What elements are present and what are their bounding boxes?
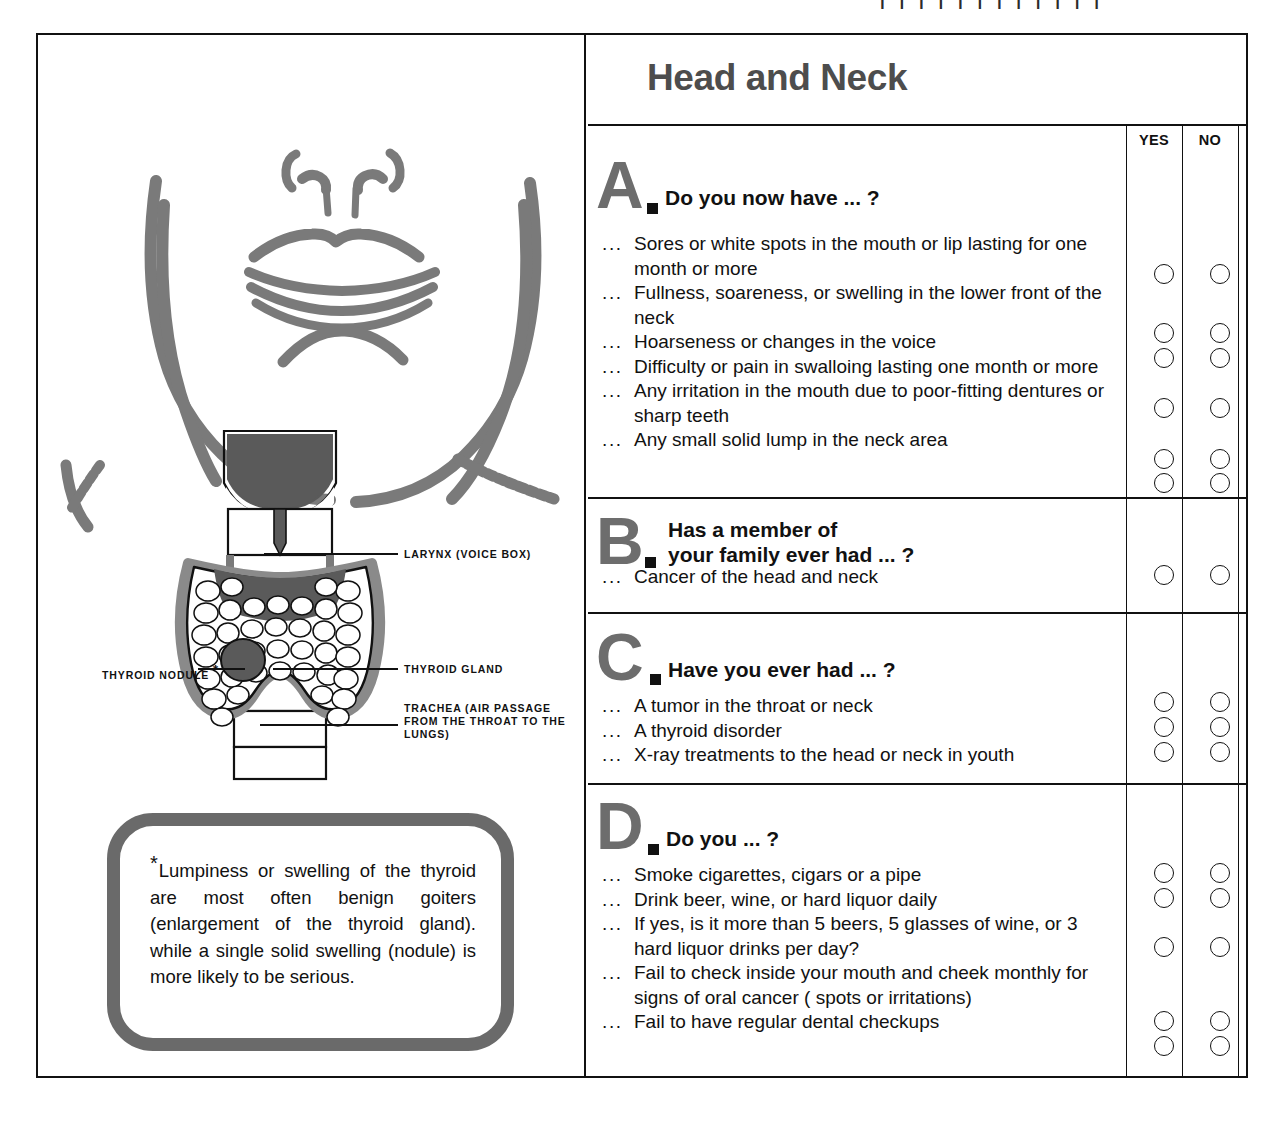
question-text: Smoke cigarettes, cigars or a pipe (634, 864, 921, 885)
footnote-body: Lumpiness or swelling of the thyroid are… (150, 860, 476, 987)
answer-bubble-yes[interactable] (1154, 398, 1174, 418)
label-thyroid-nodule-text: THYROID NODULE (102, 669, 209, 681)
section-b-prompt: Has a member ofyour family ever had ... … (668, 517, 914, 567)
answer-bubble-no[interactable] (1210, 264, 1230, 284)
answer-bubble-yes[interactable] (1154, 264, 1174, 284)
question-lead: ... (602, 355, 623, 380)
section-b-question-list: ...Cancer of the head and neck (602, 565, 1118, 590)
question-lead: ... (602, 719, 623, 744)
section-d: D Do you ... ? ...Smoke cigarettes, ciga… (588, 785, 1246, 1076)
answer-bubble-no[interactable] (1210, 692, 1230, 712)
answer-bubble-yes[interactable] (1154, 565, 1174, 585)
section-c-letter-dot (650, 674, 661, 685)
footnote-asterisk: * (150, 852, 158, 874)
question-item: ...Any irritation in the mouth due to po… (602, 379, 1118, 428)
answer-bubble-no[interactable] (1210, 717, 1230, 737)
question-lead: ... (602, 379, 623, 404)
question-lead: ... (602, 330, 623, 355)
question-lead: ... (602, 281, 623, 306)
question-text: X-ray treatments to the head or neck in … (634, 744, 1014, 765)
question-lead: ... (602, 694, 623, 719)
answer-bubble-yes[interactable] (1154, 348, 1174, 368)
answer-bubble-no[interactable] (1210, 348, 1230, 368)
question-lead: ... (602, 232, 623, 257)
answer-bubble-no[interactable] (1210, 742, 1230, 762)
question-lead: ... (602, 863, 623, 888)
answer-bubble-no[interactable] (1210, 1036, 1230, 1056)
section-d-prompt: Do you ... ? (666, 826, 779, 851)
answer-bubble-no[interactable] (1210, 888, 1230, 908)
thyroid-nodule-marker (221, 639, 265, 681)
question-item: ...Cancer of the head and neck (602, 565, 1118, 590)
larynx-structure (224, 431, 336, 555)
question-text: A tumor in the throat or neck (634, 695, 873, 716)
question-lead: ... (602, 743, 623, 768)
section-d-question-list: ...Smoke cigarettes, cigars or a pipe ..… (602, 863, 1118, 1035)
scan-artifact-fragment: | | | | | | | | | | | | (880, 0, 1104, 11)
answer-bubble-no[interactable] (1210, 473, 1230, 493)
question-item: ...Smoke cigarettes, cigars or a pipe (602, 863, 1118, 888)
answer-bubble-yes[interactable] (1154, 692, 1174, 712)
question-text: Fail to check inside your mouth and chee… (634, 962, 1088, 1008)
section-a-question-list: ...Sores or white spots in the mouth or … (602, 232, 1118, 453)
label-thyroid-nodule: THYROID NODULE* (102, 663, 219, 682)
question-text: Fullness, soareness, or swelling in the … (634, 282, 1102, 328)
question-text: Any irritation in the mouth due to poor-… (634, 380, 1104, 426)
answer-bubble-no[interactable] (1210, 449, 1230, 469)
answer-bubble-yes[interactable] (1154, 717, 1174, 737)
answer-bubble-yes[interactable] (1154, 1036, 1174, 1056)
question-text: Sores or white spots in the mouth or lip… (634, 233, 1087, 279)
answer-bubble-yes[interactable] (1154, 323, 1174, 343)
questionnaire-panel: Head and Neck YES NO A Do you now have .… (588, 35, 1246, 1076)
section-d-letter: D (596, 797, 644, 855)
answer-bubble-yes[interactable] (1154, 1011, 1174, 1031)
question-text: If yes, is it more than 5 beers, 5 glass… (634, 913, 1078, 959)
question-lead: ... (602, 1010, 623, 1035)
nose-icon (286, 153, 400, 215)
section-a-prompt: Do you now have ... ? (665, 185, 880, 210)
section-c-prompt: Have you ever had ... ? (668, 657, 896, 682)
answer-bubble-no[interactable] (1210, 565, 1230, 585)
answer-bubble-no[interactable] (1210, 863, 1230, 883)
question-item: ...Fail to check inside your mouth and c… (602, 961, 1118, 1010)
question-text: Cancer of the head and neck (634, 566, 878, 587)
answer-bubble-yes[interactable] (1154, 473, 1174, 493)
anatomy-illustration-panel: LARYNX (VOICE BOX) THYROID GLAND TRACHEA… (38, 35, 586, 1076)
question-item: ...Fullness, soareness, or swelling in t… (602, 281, 1118, 330)
label-trachea: TRACHEA (AIR PASSAGE FROM THE THROAT TO … (404, 702, 586, 741)
question-item: ...A thyroid disorder (602, 719, 1118, 744)
question-item: ...Difficulty or pain in swalloing lasti… (602, 355, 1118, 380)
neck-outline (151, 181, 536, 502)
answer-bubble-no[interactable] (1210, 937, 1230, 957)
question-text: Fail to have regular dental checkups (634, 1011, 939, 1032)
question-item: ...X-ray treatments to the head or neck … (602, 743, 1118, 768)
question-text: Any small solid lump in the neck area (634, 429, 948, 450)
answer-bubble-no[interactable] (1210, 398, 1230, 418)
thyroid-footnote-text: *Lumpiness or swelling of the thyroid ar… (150, 858, 476, 991)
answer-bubble-yes[interactable] (1154, 888, 1174, 908)
question-item: ...Fail to have regular dental checkups (602, 1010, 1118, 1035)
answer-bubble-yes[interactable] (1154, 742, 1174, 762)
question-item: ...Any small solid lump in the neck area (602, 428, 1118, 453)
question-text: Difficulty or pain in swalloing lasting … (634, 356, 1098, 377)
answer-bubble-yes[interactable] (1154, 449, 1174, 469)
section-a-letter-dot (647, 203, 658, 214)
answer-bubble-yes[interactable] (1154, 937, 1174, 957)
answer-bubble-yes[interactable] (1154, 863, 1174, 883)
section-a-letter: A (596, 156, 644, 214)
section-c-question-list: ...A tumor in the throat or neck ...A th… (602, 694, 1118, 768)
page-title: Head and Neck (647, 57, 907, 99)
section-d-letter-dot (648, 844, 659, 855)
question-text: Drink beer, wine, or hard liquor daily (634, 889, 937, 910)
question-lead: ... (602, 428, 623, 453)
section-a: A Do you now have ... ? ...Sores or whit… (588, 126, 1246, 499)
answer-bubble-no[interactable] (1210, 1011, 1230, 1031)
answer-bubble-no[interactable] (1210, 323, 1230, 343)
section-b: B Has a member ofyour family ever had ..… (588, 499, 1246, 614)
form-page: LARYNX (VOICE BOX) THYROID GLAND TRACHEA… (36, 33, 1248, 1078)
question-item: ...Drink beer, wine, or hard liquor dail… (602, 888, 1118, 913)
form-title-band: Head and Neck (588, 35, 1246, 126)
question-text: Hoarseness or changes in the voice (634, 331, 936, 352)
section-b-letter: B (596, 512, 644, 570)
question-lead: ... (602, 565, 623, 590)
